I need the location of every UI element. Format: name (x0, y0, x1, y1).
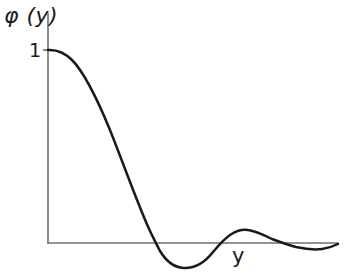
y-tick-label-1: 1 (29, 41, 41, 60)
phi-curve (48, 50, 338, 268)
x-axis-label: y (232, 246, 244, 267)
figure-container: φ (y) 1 y (0, 0, 344, 280)
plot-canvas (0, 0, 344, 280)
y-axis-label: φ (y) (4, 5, 58, 27)
